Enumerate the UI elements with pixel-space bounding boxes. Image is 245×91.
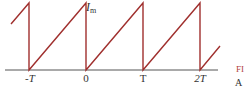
x-tick-neg-t: -T	[25, 72, 35, 84]
sawtooth-chart	[0, 0, 245, 91]
x-tick-zero: 0	[83, 72, 89, 84]
y-peak-label: Im	[86, 0, 96, 15]
x-tick-2t: 2T	[194, 72, 206, 84]
sawtooth-wave	[11, 3, 220, 70]
caption-fragment-1: FI	[236, 64, 244, 74]
caption-fragment-2: A	[235, 77, 242, 88]
x-tick-t: T	[140, 72, 147, 84]
